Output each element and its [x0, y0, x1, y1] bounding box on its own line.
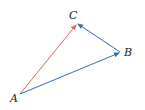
vector-ac-arrow — [20, 25, 76, 94]
point-label-b: B — [123, 46, 132, 59]
vector-ab-arrow — [20, 53, 119, 94]
point-label-a: A — [9, 92, 18, 105]
point-label-c: C — [69, 9, 78, 22]
vector-triangle-diagram: C B A — [0, 0, 145, 110]
vector-bc-arrow — [78, 24, 120, 52]
